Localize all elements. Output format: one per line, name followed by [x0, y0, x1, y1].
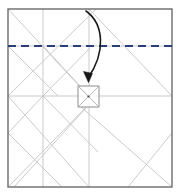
diag-center-to-br [80, 106, 172, 187]
diag-bl-to-center [8, 94, 99, 187]
crease-pattern-canvas [0, 0, 179, 194]
diag-top-center-to-right [89, 9, 172, 96]
center-point-dot [87, 95, 89, 97]
fold-arrow-curve [86, 11, 101, 78]
diag-left-mid-up-right [8, 9, 96, 96]
center-square [78, 86, 99, 107]
diag-bottomright-up [128, 133, 172, 187]
crease-pattern-figure [0, 0, 179, 194]
fold-arrow-head [84, 72, 93, 83]
